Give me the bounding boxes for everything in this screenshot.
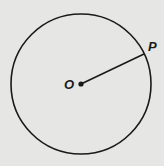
center-label: O [64, 77, 74, 92]
radius-segment-op [81, 54, 144, 84]
center-point [78, 81, 83, 86]
circle-diagram: O P [0, 0, 164, 166]
point-label: P [148, 39, 157, 54]
